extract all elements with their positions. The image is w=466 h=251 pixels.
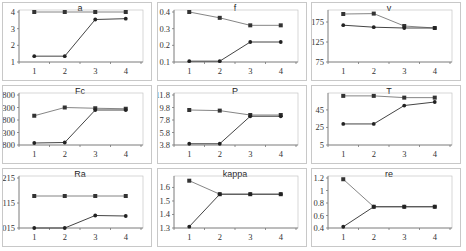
- diamond-marker: [402, 26, 406, 30]
- series-line-series1: [189, 110, 281, 115]
- chart-title: Fc: [75, 86, 85, 96]
- series-line-series1: [189, 181, 281, 195]
- diamond-marker: [341, 23, 345, 27]
- y-tick-label: 1.3: [159, 223, 170, 233]
- series-line-series1: [34, 108, 126, 116]
- diamond-marker: [433, 100, 437, 104]
- diamond-marker: [32, 54, 36, 58]
- x-tick-label: 4: [279, 232, 284, 242]
- x-tick-label: 1: [341, 66, 345, 76]
- x-tick-label: 4: [124, 149, 129, 159]
- y-tick-label: 0.6: [313, 211, 324, 221]
- square-marker: [32, 194, 36, 198]
- diamond-marker: [248, 114, 252, 118]
- y-tick-label: 3.8: [159, 140, 170, 150]
- series-line-series1: [343, 179, 435, 207]
- y-tick-label: 25: [316, 122, 325, 132]
- series-line-series2: [34, 110, 126, 143]
- series-line-series2: [189, 194, 281, 226]
- y-tick-label: 0.0215: [3, 173, 15, 183]
- chart-panel-f: f0.10.20.30.41234: [157, 2, 307, 81]
- y-tick-label: 0.0015: [3, 223, 15, 233]
- series-line-series2: [343, 25, 435, 28]
- chart-title: T: [386, 86, 392, 96]
- square-marker: [63, 10, 67, 14]
- x-tick-label: 1: [32, 66, 36, 76]
- x-tick-label: 4: [279, 66, 284, 76]
- square-marker: [279, 23, 283, 27]
- x-tick-label: 1: [32, 232, 36, 242]
- diamond-marker: [341, 122, 345, 126]
- chart-svg: Ra0.00150.01150.02151234: [3, 169, 153, 248]
- diamond-marker: [218, 192, 222, 196]
- y-tick-label: 2800: [3, 90, 15, 100]
- x-tick-label: 1: [187, 66, 191, 76]
- y-tick-label: 1.6: [159, 182, 170, 192]
- x-tick-label: 2: [63, 149, 67, 159]
- y-tick-label: 175: [312, 17, 324, 27]
- square-marker: [372, 12, 376, 16]
- x-tick-label: 3: [402, 232, 406, 242]
- chart-svg: Fc80013001800230028001234: [3, 86, 153, 165]
- y-tick-label: 1.4: [159, 209, 170, 219]
- diamond-marker: [248, 192, 252, 196]
- chart-title: f: [234, 3, 237, 13]
- square-marker: [63, 106, 67, 110]
- x-tick-label: 3: [93, 232, 97, 242]
- series-line-series1: [189, 12, 281, 25]
- y-tick-label: 1800: [3, 115, 15, 125]
- y-tick-label: 1.5: [159, 196, 170, 206]
- y-tick-label: 7.8: [159, 115, 170, 125]
- series-line-series2: [343, 207, 435, 227]
- chart-title: kappa: [223, 169, 248, 179]
- square-marker: [32, 114, 36, 118]
- chart-svg: re0.40.60.811.21234: [312, 169, 462, 248]
- diamond-marker: [433, 205, 437, 209]
- diamond-marker: [187, 225, 191, 229]
- diamond-marker: [279, 114, 283, 118]
- square-marker: [341, 94, 345, 98]
- diamond-marker: [248, 40, 252, 44]
- x-tick-label: 4: [433, 149, 438, 159]
- x-tick-label: 3: [402, 149, 406, 159]
- chart-svg: v751251751234: [312, 3, 462, 82]
- x-tick-label: 2: [372, 149, 376, 159]
- diamond-marker: [93, 214, 97, 218]
- y-tick-label: 5: [320, 140, 324, 150]
- y-tick-label: 75: [316, 57, 325, 67]
- x-tick-label: 2: [218, 66, 222, 76]
- chart-title: a: [77, 3, 82, 13]
- chart-title: v: [387, 3, 392, 13]
- y-tick-label: 800: [3, 140, 15, 150]
- square-marker: [93, 194, 97, 198]
- series-line-series2: [189, 42, 281, 61]
- square-marker: [341, 177, 345, 181]
- chart-panel-Ra: Ra0.00150.01150.02151234: [2, 168, 152, 247]
- chart-svg: P3.85.87.89.811.81234: [158, 86, 308, 165]
- square-marker: [218, 16, 222, 20]
- diamond-marker: [372, 122, 376, 126]
- x-tick-label: 2: [372, 66, 376, 76]
- chart-title: Ra: [74, 169, 86, 179]
- y-tick-label: 1.2: [313, 173, 324, 183]
- chart-panel-P: P3.85.87.89.811.81234: [157, 85, 307, 164]
- y-tick-label: 0.4: [313, 223, 324, 233]
- y-tick-label: 0.4: [159, 7, 170, 17]
- x-tick-label: 2: [63, 66, 67, 76]
- x-tick-label: 3: [248, 149, 252, 159]
- x-tick-label: 4: [433, 232, 438, 242]
- series-line-series2: [34, 216, 126, 229]
- chart-panel-kappa: kappa1.31.41.51.61234: [157, 168, 307, 247]
- y-tick-label: 1300: [3, 128, 15, 138]
- x-tick-label: 3: [93, 66, 97, 76]
- chart-svg: kappa1.31.41.51.61234: [158, 169, 308, 248]
- square-marker: [124, 10, 128, 14]
- chart-title: re: [385, 169, 393, 179]
- diamond-marker: [63, 54, 67, 58]
- y-tick-label: 3: [11, 24, 15, 34]
- y-tick-label: 125: [312, 37, 324, 47]
- x-tick-label: 3: [93, 149, 97, 159]
- y-tick-label: 0.3: [159, 24, 170, 34]
- chart-panel-T: T525451234: [311, 85, 461, 164]
- diamond-marker: [93, 108, 97, 112]
